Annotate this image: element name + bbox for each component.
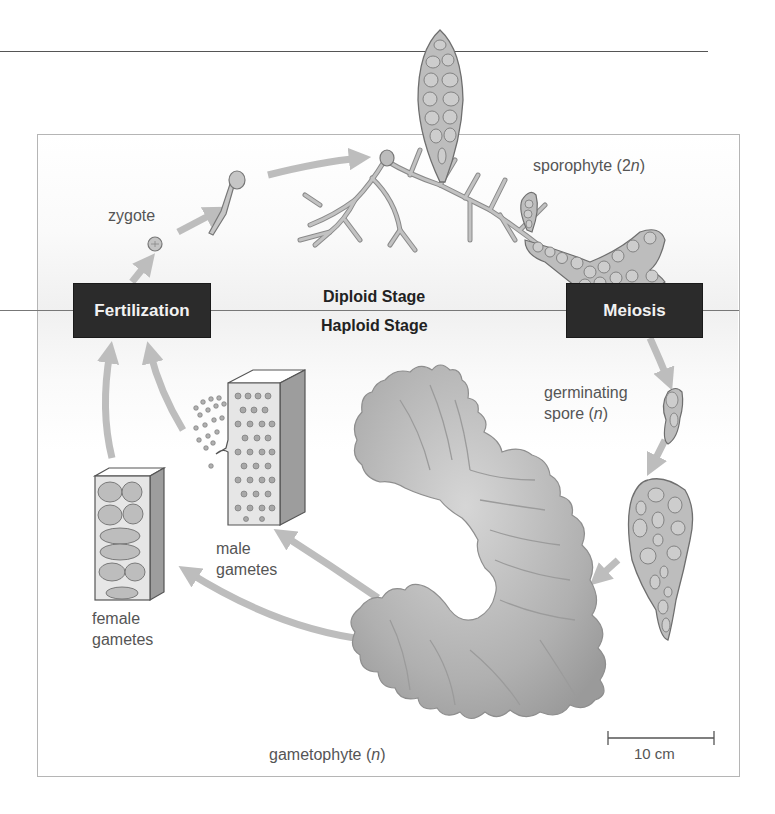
arrow-zygote-to-germling [178,212,216,232]
arrow-gametophyte-to-male [283,535,378,598]
male-gametes-block [194,370,305,525]
gametophyte-label: gametophyte (n) [269,744,386,765]
male-gametes-label: male gametes [216,538,277,580]
scale-bar-label: 10 cm [634,745,675,762]
zygote-label: zygote [108,205,155,226]
zygote-cell [148,237,162,251]
diploid-stage-title: Diploid Stage [323,288,425,306]
germinating-spore-label: germinating spore (n) [544,382,628,424]
scale-bar [608,731,714,745]
released-male-gametes [194,396,227,469]
germling [209,171,245,235]
arrow-fertilization-to-zygote [132,262,148,282]
life-cycle-illustration [0,0,775,814]
sporophyte-holdfast-cell [380,150,394,166]
meiosis-label: Meiosis [603,301,665,321]
sporophyte-label: sporophyte (2n) [533,155,645,176]
arrow-spore-to-young-gametophyte [652,440,665,466]
female-gametes-block [95,468,164,600]
arrow-young-to-gametophyte [598,560,618,578]
arrow-gametophyte-to-female [188,572,370,640]
young-gametophyte [629,479,693,640]
arrow-male-to-fertilization [150,352,183,430]
germinating-spore [663,389,682,445]
female-gametes-label: female gametes [92,608,153,650]
fertilization-label: Fertilization [94,301,189,321]
arrow-meiosis-to-spore [650,338,668,380]
arrow-female-to-fertilization [105,352,112,458]
haploid-stage-title: Haploid Stage [321,317,428,335]
meiosis-event-box: Meiosis [567,284,702,337]
fertilization-event-box: Fertilization [74,284,210,337]
arrow-germling-to-sporophyte [268,158,360,175]
